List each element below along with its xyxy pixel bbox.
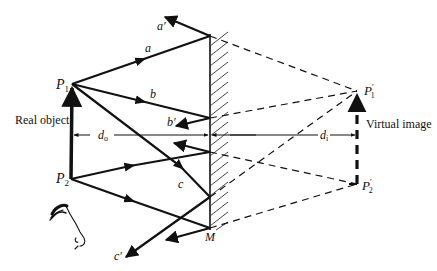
- ray-p2-lower: [71, 179, 210, 240]
- label-d-o: do: [98, 128, 108, 143]
- mirror-hatching: [210, 32, 228, 230]
- label-c-prime: c′: [114, 249, 122, 263]
- label-b-prime: b′: [167, 115, 176, 129]
- observer-eye-icon: [50, 205, 85, 249]
- plane-mirror-diagram: a′ a P1 b b′ Real object do c P2 c′ M P′…: [0, 0, 437, 271]
- ray-a-reflected: [165, 17, 210, 36]
- label-c: c: [178, 177, 184, 191]
- label-a-prime: a′: [157, 19, 166, 33]
- ray-c-reflected: [126, 197, 210, 257]
- label-d-i: di: [320, 128, 329, 143]
- label-p2: P2: [55, 171, 69, 188]
- label-m: M: [204, 230, 216, 244]
- ray-b-reflected: [176, 118, 210, 126]
- ray-p2-upper-reflected: [174, 143, 210, 152]
- label-real-object: Real object: [15, 113, 70, 127]
- label-p1-image: P′1: [363, 83, 375, 100]
- plane-mirror: [210, 32, 228, 230]
- ray-p2-upper: [71, 143, 210, 179]
- label-a: a: [145, 41, 151, 55]
- virtual-ray-extensions: [210, 36, 357, 228]
- ray-a: [72, 17, 210, 84]
- ray-c: [72, 84, 210, 257]
- label-b: b: [150, 87, 156, 101]
- real-object-arrow: [71, 88, 72, 179]
- label-p2-image: P′2: [361, 178, 373, 195]
- label-virtual-image: Virtual image: [366, 117, 432, 131]
- ray-b: [72, 84, 210, 126]
- label-p1: P1: [55, 77, 69, 94]
- ray-p2-lower-reflected: [166, 228, 210, 240]
